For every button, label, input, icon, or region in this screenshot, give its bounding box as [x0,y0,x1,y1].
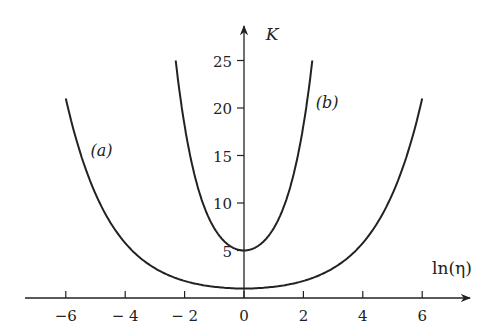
x-tick-label: − 4 [112,307,139,325]
x-tick-label: 4 [358,307,368,325]
curve-label: (a) [90,141,112,160]
chart: −6− 4− 20246 510152025 (a)(b) ln(η) K [0,0,495,334]
x-axis-label: ln(η) [432,258,472,278]
y-tick-label: 15 [213,148,232,166]
x-tick-label: 6 [417,307,427,325]
y-tick-label: 25 [213,53,232,71]
x-tick-label: 0 [239,307,249,325]
x-tick-label: −6 [55,307,77,325]
y-axis-label: K [265,24,280,44]
plot-area: −6− 4− 20246 510152025 (a)(b) ln(η) K [0,0,495,334]
y-tick-label: 10 [213,195,232,213]
x-tick-label: 2 [299,307,309,325]
y-tick-label: 20 [213,100,232,118]
x-tick-label: − 2 [171,307,198,325]
y-ticks: 510152025 [213,53,244,261]
curve-label: (b) [316,93,339,112]
x-ticks: −6− 4− 20246 [55,291,427,325]
